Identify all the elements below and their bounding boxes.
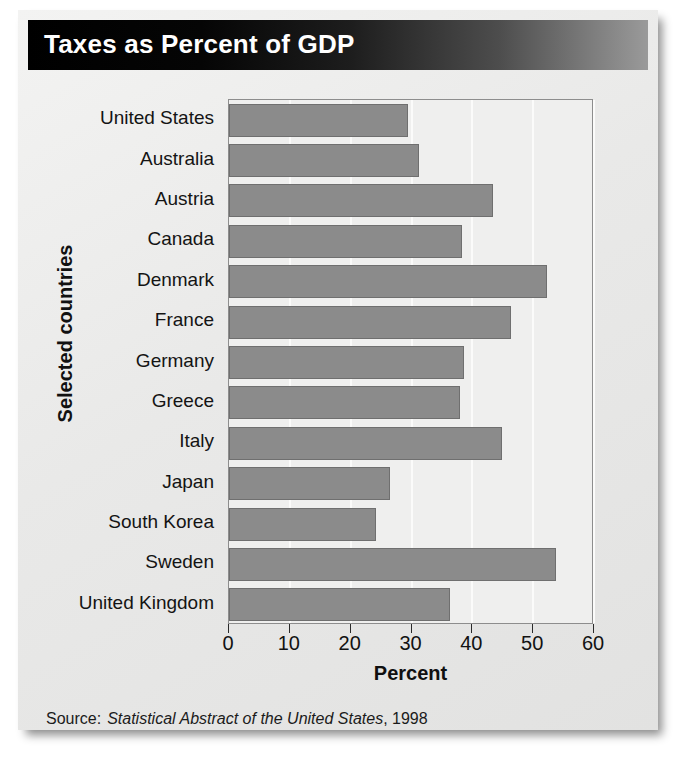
bar: [229, 225, 462, 258]
bar-row: [229, 306, 594, 339]
bar-row: [229, 588, 594, 621]
bar: [229, 386, 460, 419]
x-tick-label: 30: [399, 632, 421, 655]
page-title: Taxes as Percent of GDP: [44, 29, 354, 60]
bar-series: [229, 100, 592, 623]
x-tick-label: 40: [460, 632, 482, 655]
plot-area: [228, 99, 593, 624]
y-tick-label: Australia: [140, 148, 214, 170]
chart-card: Taxes as Percent of GDP Selected countri…: [18, 10, 658, 730]
bar-row: [229, 265, 594, 298]
bar: [229, 427, 502, 460]
bar: [229, 548, 556, 581]
page-root: Taxes as Percent of GDP Selected countri…: [0, 0, 678, 758]
y-axis-tick-labels: United StatesAustraliaAustriaCanadaDenma…: [28, 99, 222, 624]
y-tick-label: Austria: [155, 188, 214, 210]
y-tick-label: Greece: [152, 390, 214, 412]
source-note: Source:Statistical Abstract of the Unite…: [46, 710, 428, 728]
bar: [229, 467, 390, 500]
bar: [229, 508, 376, 541]
source-title: Statistical Abstract of the United State…: [101, 710, 383, 727]
x-tick-label: 60: [582, 632, 604, 655]
y-tick-label: Canada: [147, 228, 214, 250]
bar-row: [229, 184, 594, 217]
source-year: , 1998: [383, 710, 427, 727]
y-tick-label: Italy: [179, 430, 214, 452]
x-tick-label: 20: [339, 632, 361, 655]
bar-row: [229, 467, 594, 500]
y-tick-label: United Kingdom: [79, 592, 214, 614]
bar-row: [229, 427, 594, 460]
y-tick-label: Denmark: [137, 269, 214, 291]
source-label: Source:: [46, 710, 101, 727]
bar-row: [229, 225, 594, 258]
bar-row: [229, 144, 594, 177]
y-tick-label: United States: [100, 107, 214, 129]
x-tick-label: 10: [278, 632, 300, 655]
x-axis-tick-labels: 0102030405060: [228, 632, 593, 660]
bar-row: [229, 104, 594, 137]
y-tick-label: Germany: [136, 350, 214, 372]
bar: [229, 306, 511, 339]
bar: [229, 104, 408, 137]
chart-container: Selected countries United StatesAustrali…: [28, 72, 648, 702]
bar: [229, 144, 419, 177]
bar-row: [229, 346, 594, 379]
bar: [229, 346, 464, 379]
bar-row: [229, 508, 594, 541]
title-bar: Taxes as Percent of GDP: [28, 20, 648, 70]
x-axis-title: Percent: [228, 662, 593, 685]
bar-row: [229, 386, 594, 419]
bar-row: [229, 548, 594, 581]
y-tick-label: Japan: [162, 471, 214, 493]
x-tick-label: 50: [521, 632, 543, 655]
y-tick-label: France: [155, 309, 214, 331]
bar: [229, 265, 547, 298]
bar: [229, 184, 493, 217]
y-tick-label: Sweden: [145, 551, 214, 573]
y-tick-label: South Korea: [108, 511, 214, 533]
bar: [229, 588, 450, 621]
x-tick-label: 0: [222, 632, 233, 655]
